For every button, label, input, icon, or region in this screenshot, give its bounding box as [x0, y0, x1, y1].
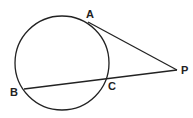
point-label-b: B [10, 86, 18, 98]
circle [15, 16, 109, 110]
point-label-c: C [108, 80, 116, 92]
tangent-segment-pa [88, 22, 177, 70]
geometry-diagram: A B C P [0, 0, 193, 118]
secant-segment-pb [24, 70, 177, 89]
point-label-a: A [86, 8, 94, 20]
point-label-p: P [181, 64, 188, 76]
